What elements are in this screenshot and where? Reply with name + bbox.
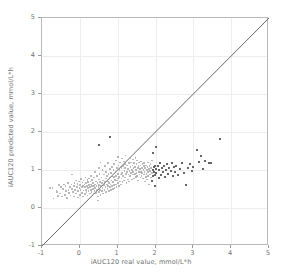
data-point bbox=[142, 178, 144, 180]
data-point bbox=[179, 168, 181, 170]
data-point bbox=[67, 182, 69, 184]
x-tick-label: 2 bbox=[145, 249, 165, 257]
data-point bbox=[120, 174, 122, 176]
data-point bbox=[53, 198, 55, 200]
data-point bbox=[113, 163, 115, 165]
data-point bbox=[163, 165, 165, 167]
data-point bbox=[219, 138, 221, 140]
data-point bbox=[103, 174, 105, 176]
x-axis-title: iAUC120 real value, mmol/L*h bbox=[0, 258, 282, 266]
data-point bbox=[79, 194, 81, 196]
data-point bbox=[110, 172, 112, 174]
data-point bbox=[68, 192, 70, 194]
data-point bbox=[73, 196, 75, 198]
y-tick-mark bbox=[38, 93, 41, 94]
data-point bbox=[117, 178, 119, 180]
data-point bbox=[152, 152, 154, 154]
data-point bbox=[90, 175, 92, 177]
data-point bbox=[191, 170, 193, 172]
y-tick-label: -1 bbox=[19, 241, 35, 249]
data-point bbox=[105, 191, 107, 193]
data-point bbox=[185, 184, 187, 186]
data-point bbox=[91, 179, 93, 181]
data-point bbox=[65, 185, 67, 187]
data-point bbox=[158, 177, 160, 179]
data-point bbox=[87, 195, 89, 197]
data-point bbox=[118, 165, 120, 167]
data-point bbox=[198, 161, 200, 163]
data-point bbox=[137, 180, 139, 182]
data-point bbox=[124, 170, 126, 172]
data-point bbox=[129, 158, 131, 160]
data-point bbox=[162, 171, 164, 173]
y-tick-label: 5 bbox=[19, 13, 35, 21]
data-point bbox=[132, 159, 134, 161]
data-point bbox=[99, 173, 101, 175]
data-point bbox=[68, 189, 70, 191]
data-point bbox=[121, 172, 123, 174]
data-point bbox=[150, 163, 152, 165]
data-point bbox=[70, 195, 72, 197]
data-point bbox=[100, 194, 102, 196]
data-point bbox=[93, 177, 95, 179]
data-point bbox=[84, 193, 86, 195]
data-point bbox=[157, 165, 159, 167]
data-point bbox=[73, 185, 75, 187]
data-point bbox=[121, 178, 123, 180]
data-point bbox=[145, 176, 147, 178]
data-point bbox=[97, 196, 99, 198]
y-tick-mark bbox=[38, 55, 41, 56]
data-point bbox=[127, 160, 129, 162]
data-point bbox=[88, 178, 90, 180]
data-point bbox=[140, 161, 142, 163]
data-point bbox=[62, 188, 64, 190]
data-point bbox=[177, 174, 179, 176]
data-point bbox=[154, 185, 156, 187]
data-point bbox=[165, 169, 167, 171]
x-tick-mark bbox=[41, 245, 42, 248]
data-point bbox=[93, 193, 95, 195]
data-point bbox=[123, 180, 125, 182]
data-point bbox=[158, 169, 160, 171]
y-tick-label: 4 bbox=[19, 51, 35, 59]
data-point bbox=[102, 193, 104, 195]
data-point bbox=[122, 181, 124, 183]
data-point bbox=[123, 161, 125, 163]
plot-area bbox=[41, 17, 268, 245]
scatter-plot-figure: iAUC120 predicted value, mmol/L*h -10123… bbox=[0, 0, 282, 279]
data-point bbox=[94, 171, 96, 173]
data-point bbox=[161, 167, 163, 169]
data-point bbox=[164, 176, 166, 178]
data-point bbox=[171, 162, 173, 164]
data-point bbox=[204, 160, 206, 162]
data-point bbox=[187, 167, 189, 169]
data-point bbox=[125, 155, 127, 157]
x-tick-label: 0 bbox=[69, 249, 89, 257]
data-point bbox=[76, 186, 78, 188]
data-point bbox=[119, 169, 121, 171]
data-point bbox=[140, 177, 142, 179]
y-tick-mark bbox=[38, 245, 41, 246]
data-point bbox=[117, 156, 119, 158]
data-point bbox=[59, 193, 61, 195]
y-tick-label: 0 bbox=[19, 203, 35, 211]
y-tick-mark bbox=[38, 131, 41, 132]
data-point bbox=[141, 175, 143, 177]
x-tick-mark bbox=[155, 245, 156, 248]
data-point bbox=[155, 168, 157, 170]
data-point bbox=[57, 195, 59, 197]
data-point bbox=[167, 173, 169, 175]
y-tick-label: 1 bbox=[19, 165, 35, 173]
data-point bbox=[109, 168, 111, 170]
data-point bbox=[109, 136, 111, 138]
x-tick-label: 1 bbox=[107, 249, 127, 257]
data-point bbox=[155, 146, 157, 148]
data-point bbox=[174, 171, 176, 173]
data-point bbox=[121, 158, 123, 160]
data-point bbox=[170, 170, 172, 172]
data-point bbox=[151, 160, 153, 162]
data-point bbox=[210, 162, 212, 164]
data-point bbox=[189, 163, 191, 165]
data-point bbox=[82, 196, 84, 198]
data-point bbox=[72, 191, 74, 193]
